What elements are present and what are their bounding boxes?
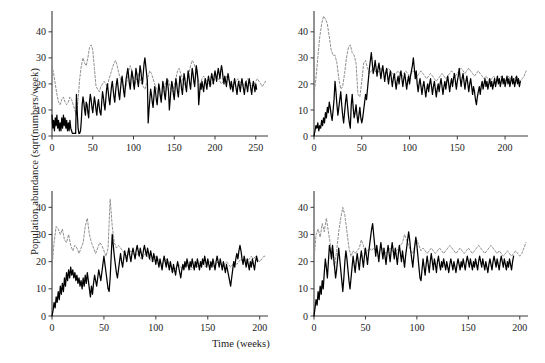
x-tick-label: 50 [99, 322, 109, 333]
x-axis-label: Time (weeks) [212, 338, 270, 349]
x-tick-label: 50 [360, 322, 370, 333]
x-tick-label: 100 [402, 142, 417, 153]
x-tick-label: 200 [498, 142, 513, 153]
y-tick-label: 30 [298, 52, 308, 63]
series-solid [314, 224, 514, 316]
y-tick-label: 0 [303, 131, 308, 142]
y-tick-label: 20 [298, 79, 308, 90]
x-tick-label: 100 [148, 322, 163, 333]
panel-top-left: 010203040050100150200250 [36, 11, 268, 153]
y-tick-label: 0 [41, 311, 46, 322]
x-tick-label: 200 [252, 322, 267, 333]
x-tick-label: 150 [200, 322, 215, 333]
panel-bottom-right: 010203040050100150200 [298, 191, 528, 333]
x-tick-label: 50 [88, 142, 98, 153]
x-tick-label: 200 [208, 142, 223, 153]
figure-container: 0102030400501001502002500102030400501001… [0, 0, 545, 363]
y-tick-label: 10 [298, 105, 308, 116]
y-tick-label: 10 [298, 283, 308, 294]
y-tick-label: 30 [298, 229, 308, 240]
x-tick-label: 150 [450, 142, 465, 153]
y-tick-label: 20 [298, 256, 308, 267]
y-tick-label: 0 [41, 131, 46, 142]
y-tick-label: 0 [303, 311, 308, 322]
x-tick-label: 0 [50, 142, 55, 153]
x-tick-label: 250 [248, 142, 263, 153]
series-dashed [314, 16, 526, 97]
y-tick-label: 40 [298, 202, 308, 213]
y-axis-label: Population abundance (sqrt(numbers/week) [29, 32, 40, 292]
panel-top-right: 010203040050100150200 [298, 11, 528, 153]
y-tick-label: 40 [298, 26, 308, 37]
x-tick-label: 150 [461, 322, 476, 333]
series-solid [52, 58, 257, 134]
x-tick-label: 200 [512, 322, 527, 333]
x-tick-label: 100 [126, 142, 141, 153]
four-panel-time-series-figure: 0102030400501001502002500102030400501001… [0, 0, 545, 363]
x-tick-label: 50 [357, 142, 367, 153]
x-tick-label: 100 [409, 322, 424, 333]
series-solid [52, 234, 258, 316]
panel-bottom-left: 010203040050100150200 [36, 191, 268, 333]
x-tick-label: 0 [312, 322, 317, 333]
series-solid [314, 53, 520, 136]
x-tick-label: 150 [167, 142, 182, 153]
x-tick-label: 0 [312, 142, 317, 153]
x-tick-label: 0 [50, 322, 55, 333]
